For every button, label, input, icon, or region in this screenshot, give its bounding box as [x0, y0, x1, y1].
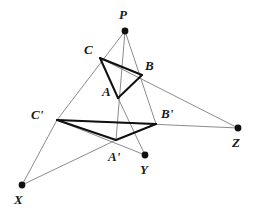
edge-Cp-Bp: [57, 120, 156, 124]
axis-lines-group: [22, 58, 238, 185]
vertex-dots-group: [19, 28, 242, 189]
triangle-edges-group: [57, 58, 156, 140]
point-X: [19, 182, 26, 189]
vertex-label-Z: Z: [232, 136, 240, 149]
vertex-label-C-prime: C': [31, 108, 43, 121]
vertex-label-B: B: [145, 59, 154, 72]
vertex-label-Y: Y: [140, 163, 148, 176]
edge-Bp-Ap: [116, 124, 156, 140]
vertex-label-C: C: [84, 43, 93, 56]
line-Y-through-B-to-A: [118, 98, 145, 155]
point-Y: [142, 152, 149, 159]
point-Z: [235, 125, 242, 132]
vertex-label-A-prime: A': [108, 150, 120, 163]
vertex-label-P: P: [119, 8, 127, 21]
vertex-label-X: X: [14, 193, 23, 206]
vertex-label-B-prime: B': [161, 107, 173, 120]
point-P: [122, 28, 129, 35]
vertex-label-A: A: [102, 85, 111, 98]
line-X-through-Aprime-to-Bp: [22, 140, 116, 185]
line-X-through-Cprime-to-C: [22, 120, 57, 185]
edge-B-A: [118, 75, 142, 98]
geometry-diagram: P C B A C' B' A' Y Z X: [0, 0, 259, 217]
